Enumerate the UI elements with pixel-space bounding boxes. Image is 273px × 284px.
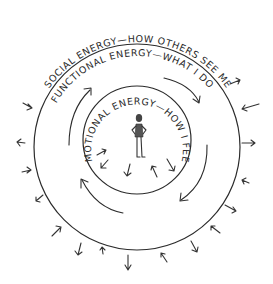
flow-arrow-icon <box>81 179 123 213</box>
person-figure-icon <box>132 114 146 157</box>
flow-arrow-icon <box>164 78 200 103</box>
emotional-energy-label: EMOTIONAL ENERGY—HOW I FEEL <box>0 0 192 164</box>
outer-energy-arrows <box>17 78 259 270</box>
energy-rings-diagram: SOCIAL ENERGY—HOW OTHERS SEE ME FUNCTION… <box>0 0 273 284</box>
inner-energy-arrows <box>97 149 175 177</box>
